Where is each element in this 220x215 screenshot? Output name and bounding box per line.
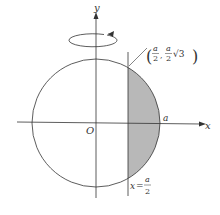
svg-text:2: 2 <box>166 54 171 63</box>
diagram-canvas: y x O a ( a 2 , a 2 √3 ) x = a 2 <box>0 0 220 215</box>
leader-line <box>129 48 147 66</box>
svg-text:x: x <box>130 181 135 191</box>
svg-text:2: 2 <box>153 54 158 63</box>
y-axis-label: y <box>93 2 100 13</box>
svg-text:a: a <box>153 44 158 53</box>
radius-point-label: a <box>163 113 168 123</box>
svg-text:(: ( <box>146 47 152 66</box>
svg-text:,: , <box>160 51 163 60</box>
vertical-line-label: x = a 2 <box>130 175 151 196</box>
rotation-arrow-icon <box>69 31 117 47</box>
intersection-point-label: ( a 2 , a 2 √3 ) <box>146 44 198 66</box>
svg-text:2: 2 <box>145 187 150 196</box>
svg-text:): ) <box>192 47 198 66</box>
x-axis-label: x <box>205 120 211 131</box>
svg-text:√3: √3 <box>173 49 185 59</box>
svg-text:a: a <box>145 175 150 184</box>
y-axis-arrow-icon <box>94 12 99 19</box>
origin-label: O <box>86 125 94 136</box>
svg-text:=: = <box>136 181 144 191</box>
x-axis <box>17 122 202 124</box>
svg-text:a: a <box>166 44 171 53</box>
